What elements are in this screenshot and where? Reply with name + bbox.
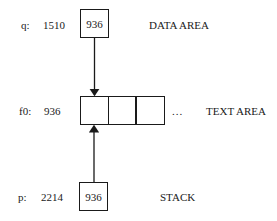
stack-address: 2214 [41,191,63,203]
text-area-label: TEXT AREA [206,105,266,117]
stack-pointer-cell: 936 [79,182,108,211]
data-address: 1510 [43,19,65,31]
text-address: 936 [44,105,61,117]
stack-variable-label: p: [18,191,27,203]
text-cell-0 [80,96,109,125]
text-cell-2 [135,96,165,125]
data-area-label: DATA AREA [149,19,209,31]
data-variable-label: q: [21,19,30,31]
text-variable-label: f0: [19,105,31,117]
stack-label: STACK [160,191,195,203]
text-cell-1 [108,96,137,125]
data-pointer-cell: 936 [80,9,109,38]
ellipsis: ... [172,105,183,117]
